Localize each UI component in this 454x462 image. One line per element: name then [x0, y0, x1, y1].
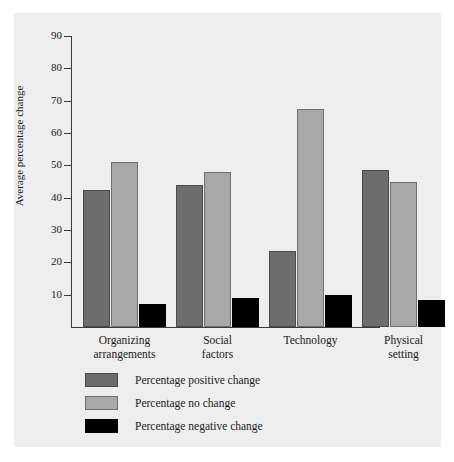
bar-group [83, 36, 166, 327]
y-axis-tick-label: 20 [36, 256, 62, 267]
category-label-line: Physical [349, 334, 454, 348]
y-axis-tick-label: 50 [36, 159, 62, 170]
y-axis-tick-label: 40 [36, 192, 62, 203]
bar-negative [418, 300, 445, 327]
figure: 908070605040302010 Average percentage ch… [0, 0, 454, 462]
y-axis-tick-label: 30 [36, 224, 62, 235]
y-axis-label: Average percentage change [13, 61, 25, 231]
y-axis-tick-label: 70 [36, 95, 62, 106]
x-axis-category-label: Physicalsetting [349, 334, 454, 361]
bar-neutral [111, 162, 138, 327]
bar-negative [325, 295, 352, 327]
bar-group [269, 36, 352, 327]
category-label-line: factors [163, 348, 273, 362]
bar-positive [362, 170, 389, 327]
category-label-line: setting [349, 348, 454, 362]
bar-negative [139, 304, 166, 327]
bar-group [176, 36, 259, 327]
bar-group [362, 36, 445, 327]
bar-positive [83, 190, 110, 327]
y-axis-tick-label: 10 [36, 289, 62, 300]
bar-positive [269, 251, 296, 327]
y-axis-tick-label: 80 [36, 62, 62, 73]
y-axis-tick-label: 90 [36, 30, 62, 41]
bar-positive [176, 185, 203, 327]
legend-swatch-positive [85, 373, 118, 387]
plot-area [71, 36, 447, 327]
x-axis-line [71, 327, 380, 328]
bar-neutral [297, 109, 324, 327]
legend-label: Percentage positive change [135, 373, 260, 387]
bar-negative [232, 298, 259, 327]
legend-label: Percentage negative change [135, 419, 263, 433]
y-axis-tick-label: 60 [36, 127, 62, 138]
legend-swatch-neutral [85, 396, 118, 410]
bar-neutral [390, 182, 417, 328]
legend-swatch-negative [85, 419, 118, 433]
legend-label: Percentage no change [135, 396, 235, 410]
bar-neutral [204, 172, 231, 327]
